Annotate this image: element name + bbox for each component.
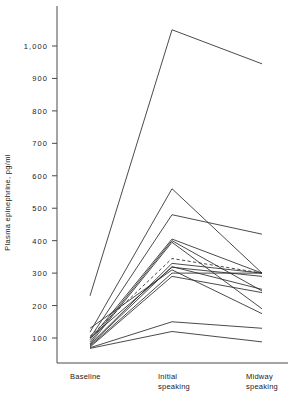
y-axis-tick-label: 600 <box>32 171 48 180</box>
x-axis-tick-label: Initialspeaking <box>158 372 190 391</box>
y-axis-tick-label: 100 <box>32 334 48 343</box>
x-axis-tick-label-line: Baseline <box>70 372 101 382</box>
y-axis-tick-label: 700 <box>32 139 48 148</box>
y-axis-tick-label: 900 <box>32 74 48 83</box>
x-axis-tick-label-line: Initial <box>158 372 190 382</box>
y-axis-tick-label: 400 <box>32 236 48 245</box>
y-axis-title-wrap: Plasma epinephrine, pg/ml <box>0 120 14 290</box>
x-axis-tick-label-line: Midway <box>246 372 278 382</box>
y-axis-tick-label: 1,000 <box>24 42 48 51</box>
x-axis-tick-label-line: speaking <box>158 382 190 392</box>
y-axis-ticks <box>52 46 57 338</box>
series-line-subject-13 <box>90 322 262 348</box>
x-axis-tick-label-line: speaking <box>246 382 278 392</box>
chart-figure: 1,000900800700600500400300200100 Baselin… <box>0 0 295 417</box>
series-line-subject-1 <box>90 30 262 296</box>
chart-series-lines <box>90 30 262 349</box>
y-axis-title: Plasma epinephrine, pg/ml <box>3 118 12 288</box>
y-axis-tick-label: 500 <box>32 204 48 213</box>
series-line-subject-9 <box>90 267 262 338</box>
x-axis-tick-label: Baseline <box>70 372 101 382</box>
x-axis-tick-label: Midwayspeaking <box>246 372 278 391</box>
series-line-subject-8 <box>90 267 262 346</box>
y-axis-tick-label: 200 <box>32 301 48 310</box>
y-axis-tick-label: 800 <box>32 106 48 115</box>
series-line-subject-6 <box>90 242 262 344</box>
y-axis-tick-label: 300 <box>32 269 48 278</box>
